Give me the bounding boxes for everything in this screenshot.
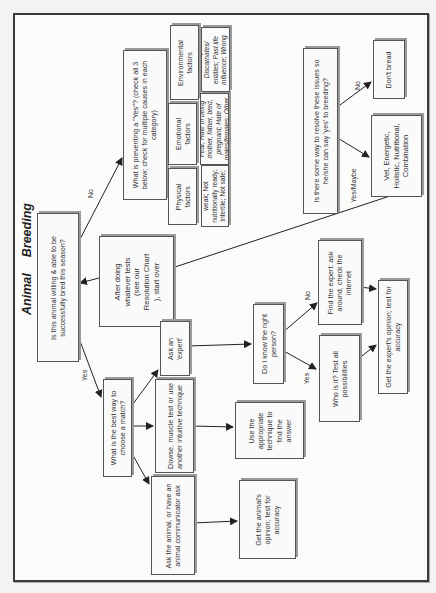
node-dont-breed: Don't bread	[373, 40, 405, 99]
node-who-is-it: Who is it? Test all possibilities	[319, 335, 360, 422]
node-emotional-factors: Emotional factors	[168, 103, 197, 165]
node-emotional-details: Fear; Hate of being mother, father, bred…	[200, 93, 229, 165]
node-environmental-details: EMF; Geopathic; Discarnates/ entities; P…	[201, 27, 230, 92]
node-physical-details: Too old, sick or weak; Not nutritionally…	[201, 165, 229, 227]
node-right-person-question: Do I know the right person?	[253, 304, 284, 384]
node-ask-expert: Ask an 'expert'	[160, 321, 190, 376]
node-environmental-factors: Environmental factors	[170, 25, 199, 100]
edge-label-person-yes: Yes	[303, 373, 310, 384]
node-find-expert: Find the expert: ask around, check the i…	[318, 240, 362, 325]
edge-label-resolve-no: No	[354, 81, 361, 90]
node-resolve-question: Is there some way to resolve these issue…	[303, 48, 338, 214]
node-best-way-question: What is the best way to choose a match?	[103, 379, 132, 477]
node-animal-opinion: Get the animal's opinion; test for accur…	[239, 480, 296, 559]
title-word-animal: Animal	[20, 273, 34, 315]
node-remedies: Vet, Energetic, Holistic, Nutritional, C…	[371, 115, 422, 197]
edge-label-person-no: No	[304, 291, 311, 300]
node-ask-animal: Ask the animal, or have an animal commun…	[151, 476, 195, 575]
edge-label-resolve-yes: Yes/Maybe	[350, 168, 357, 202]
title-word-breeding: Breeding	[20, 203, 34, 257]
node-willing-question: Is this animal willing & able to be succ…	[37, 213, 79, 362]
node-after-tests: After doing whatever tests (see our Reso…	[99, 236, 174, 327]
chart-title: AnimalBreeding	[20, 184, 34, 334]
node-dowse: Dowse, muscle test or use another intuit…	[155, 379, 194, 473]
node-physical-factors: Physical factors	[168, 168, 197, 225]
edge-label-willing-no: No	[87, 189, 94, 198]
node-use-technique: Use the appropriate technique to find th…	[235, 402, 304, 459]
node-preventing-question: What is preventing a "Yes"? (check all 3…	[123, 50, 167, 200]
edge-label-willing-yes: Yes	[81, 370, 88, 381]
node-expert-opinion: Get the expert's opinion; test for accur…	[378, 280, 408, 394]
